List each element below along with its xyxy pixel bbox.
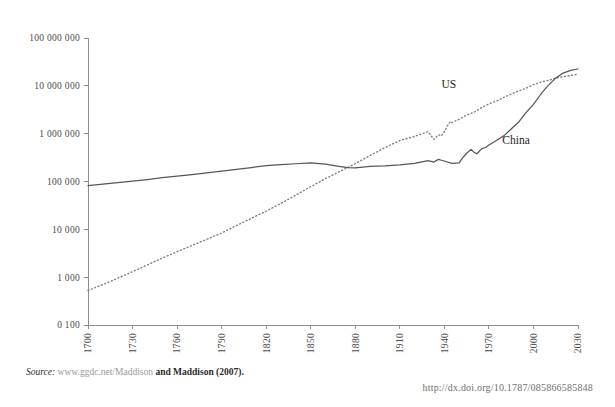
series-annotations: USChina <box>441 78 529 146</box>
source-label: Source: <box>26 367 55 377</box>
x-tick-label: 1700 <box>83 333 93 353</box>
y-tick-labels: 0 1001 00010 000100 0001 000 00010 000 0… <box>29 33 80 330</box>
x-tick-label: 1760 <box>172 333 182 353</box>
series-annotation-us: US <box>441 78 456 90</box>
x-tick-marks <box>88 325 578 329</box>
series-line-us <box>88 74 578 290</box>
x-tick-label: 2000 <box>529 333 539 353</box>
source-citation: and Maddison (2007). <box>155 367 243 377</box>
figure-container: 0 1001 00010 000100 0001 000 00010 000 0… <box>0 0 615 407</box>
series-annotation-china: China <box>502 134 529 146</box>
x-tick-label: 1820 <box>262 333 272 353</box>
y-axis: 0 1001 00010 000100 0001 000 00010 000 0… <box>29 33 88 330</box>
figure-footer: Source: www.ggdc.net/Maddison and Maddis… <box>0 367 615 407</box>
y-tick-label: 0 100 <box>57 320 80 330</box>
plot-series <box>88 69 578 290</box>
line-chart: 0 1001 00010 000100 0001 000 00010 000 0… <box>0 0 615 407</box>
y-tick-marks <box>84 38 88 325</box>
x-tick-label: 1730 <box>128 333 138 353</box>
y-tick-label: 100 000 <box>47 177 80 187</box>
y-tick-label: 10 000 <box>52 225 80 235</box>
y-tick-label: 1 000 000 <box>39 129 80 139</box>
x-tick-label: 1940 <box>440 333 450 353</box>
y-tick-label: 1 000 <box>57 273 80 283</box>
x-tick-label: 1850 <box>306 333 316 353</box>
source-url[interactable]: www.ggdc.net/Maddison <box>58 367 153 377</box>
doi-link[interactable]: http://dx.doi.org/10.1787/085866585848 <box>423 382 593 393</box>
x-tick-label: 1970 <box>484 333 494 353</box>
source-note: Source: www.ggdc.net/Maddison and Maddis… <box>26 367 244 377</box>
x-tick-label: 1910 <box>395 333 405 353</box>
y-tick-label: 100 000 000 <box>29 33 80 43</box>
x-tick-label: 2030 <box>573 333 583 353</box>
x-tick-label: 1790 <box>217 333 227 353</box>
x-axis: 1700173017601790182018501880191019401970… <box>83 325 583 353</box>
y-tick-label: 10 000 000 <box>34 81 80 91</box>
x-tick-labels: 1700173017601790182018501880191019401970… <box>83 333 583 353</box>
x-tick-label: 1880 <box>351 333 361 353</box>
series-line-china <box>88 69 578 186</box>
